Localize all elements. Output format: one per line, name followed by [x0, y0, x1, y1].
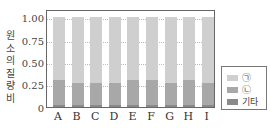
- y-tick: 0.75: [22, 36, 44, 47]
- bar-segment: [183, 17, 195, 80]
- ylabel-char: 량: [4, 80, 16, 93]
- x-tick: I: [200, 110, 214, 123]
- bar-segment: [109, 83, 121, 106]
- bar-segment: [183, 105, 195, 107]
- x-tick: B: [70, 110, 84, 123]
- bar-segment: [53, 105, 65, 107]
- x-tick: A: [51, 110, 65, 123]
- x-tick: F: [144, 110, 158, 123]
- y-tick: 0.50: [22, 58, 44, 69]
- bar-segment: [53, 80, 65, 105]
- bar-segment: [109, 105, 121, 107]
- bar-H: [183, 17, 195, 107]
- bar-segment: [127, 105, 139, 107]
- bar-segment: [165, 83, 177, 106]
- ylabel-char: 의: [4, 55, 16, 68]
- x-tick: G: [163, 110, 177, 123]
- bar-segment: [53, 17, 65, 80]
- bar-C: [90, 17, 102, 107]
- y-tick: 1.00: [22, 13, 44, 24]
- x-tick: H: [181, 110, 195, 123]
- bar-segment: [202, 17, 214, 83]
- legend: ㉠ ㉡ 기타: [221, 66, 267, 110]
- bar-D: [109, 17, 121, 107]
- bar-segment: [90, 17, 102, 83]
- bar-segment: [146, 105, 158, 107]
- bar-E: [127, 17, 139, 107]
- legend-item: 기타: [227, 96, 266, 107]
- y-tick: 0: [38, 103, 44, 114]
- bar-segment: [72, 105, 84, 107]
- bar-F: [146, 17, 158, 107]
- bar-I: [202, 17, 214, 107]
- bar-segment: [146, 80, 158, 105]
- plot-area: [46, 10, 215, 108]
- bar-segment: [183, 80, 195, 105]
- legend-item: ㉠: [227, 72, 266, 83]
- bar-segment: [72, 83, 84, 106]
- legend-item: ㉡: [227, 84, 266, 95]
- legend-swatch: [227, 87, 238, 93]
- bar-segment: [127, 17, 139, 80]
- bar-segment: [90, 105, 102, 107]
- bar-segment: [109, 17, 121, 83]
- bar-segment: [146, 17, 158, 80]
- legend-label: 기타: [242, 95, 258, 108]
- bar-segment: [127, 80, 139, 105]
- bar-segment: [202, 83, 214, 106]
- bar-B: [72, 17, 84, 107]
- legend-swatch: [227, 75, 238, 81]
- bar-segment: [202, 105, 214, 107]
- bar-segment: [165, 105, 177, 107]
- x-tick: E: [125, 110, 139, 123]
- y-tick: 0.25: [22, 80, 44, 91]
- ylabel-char: 비: [4, 93, 16, 106]
- y-axis-label: 원 소 의 질 량 비: [4, 30, 16, 105]
- legend-swatch: [227, 99, 238, 105]
- bar-A: [53, 17, 65, 107]
- ylabel-char: 소: [4, 43, 16, 56]
- x-tick: D: [107, 110, 121, 123]
- ylabel-char: 질: [4, 68, 16, 81]
- bar-segment: [165, 17, 177, 83]
- bar-G: [165, 17, 177, 107]
- bar-segment: [90, 83, 102, 106]
- bar-segment: [72, 17, 84, 83]
- ylabel-char: 원: [4, 30, 16, 43]
- x-tick: C: [88, 110, 102, 123]
